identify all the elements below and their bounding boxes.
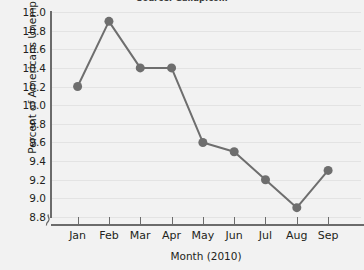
y-axis-tick-label: 10.6 [14,44,46,54]
data-point-marker: Aug: 8.9 [292,203,301,212]
unemployment-line-chart: Source: Gallup.com Percent of Americans … [0,0,364,270]
y-axis-tick-label: 9.0 [14,193,46,203]
y-axis-tick-labels: 11.010.810.610.410.210.09.89.69.49.29.08… [14,0,46,270]
series-line [78,21,329,207]
x-axis-tick [265,217,266,224]
data-point-marker: Jun: 9.5 [230,147,239,156]
x-axis-tick [203,217,204,224]
y-axis-tick-label: 9.6 [14,137,46,147]
y-axis-tick-label: 10.2 [14,82,46,92]
y-axis-tick-label: 9.4 [14,156,46,166]
data-point-marker: Sep: 9.3 [324,166,333,175]
x-axis-tick [172,217,173,224]
x-axis-tick-label: Sep [308,229,348,243]
data-point-marker: Feb: 10.9 [104,17,113,26]
y-axis-tick-label: 10.8 [14,26,46,36]
x-axis-tick [297,217,298,224]
data-point-marker: Jan: 10.2 [73,82,82,91]
x-axis-tick-labels: JanFebMarAprMayJunJulAugSep [51,229,361,245]
x-axis-title: Month (2010) [51,250,361,262]
y-axis-tick-label: 10.4 [14,63,46,73]
data-point-marker: Apr: 10.4 [167,63,176,72]
data-point-marker: Mar: 10.4 [136,63,145,72]
y-axis-tick-label: 9.2 [14,175,46,185]
x-axis-tick [78,217,79,224]
x-axis-tick [328,217,329,224]
y-axis-tick-label: 8.8 [14,212,46,222]
y-axis-line [50,11,52,218]
y-axis-tick-label: 10.0 [14,100,46,110]
data-point-marker: May: 9.6 [198,138,207,147]
x-axis-tick [109,217,110,224]
x-axis-tick [234,217,235,224]
data-series-unemployment: Jan: 10.2Feb: 10.9Mar: 10.4Apr: 10.4May:… [51,12,361,217]
x-axis-tick [140,217,141,224]
y-axis-tick-label: 9.8 [14,119,46,129]
data-point-marker: Jul: 9.2 [261,175,270,184]
x-axis-ticks [51,217,361,225]
source-note: Source: Gallup.com [0,0,364,4]
plot-area: Jan: 10.2Feb: 10.9Mar: 10.4Apr: 10.4May:… [51,12,361,217]
y-axis-tick-label: 11.0 [14,7,46,17]
